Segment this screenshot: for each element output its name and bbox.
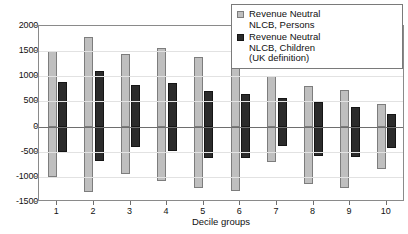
bar-5-series1-negative bbox=[194, 127, 203, 189]
gridline bbox=[39, 177, 403, 178]
bar-10-series1-positive bbox=[377, 104, 386, 126]
chart-legend: Revenue Neutral NLCB, Persons Revenue Ne… bbox=[231, 4, 403, 69]
gridline bbox=[39, 76, 403, 77]
bar-9-series1-positive bbox=[340, 90, 349, 126]
bar-5-series2-negative bbox=[204, 127, 213, 158]
x-axis-tick-mark bbox=[56, 201, 57, 205]
x-axis-tick-mark bbox=[349, 201, 350, 205]
bar-4-series2-negative bbox=[168, 127, 177, 152]
bar-7-series2-positive bbox=[278, 98, 287, 126]
y-axis-tick-label: 500 bbox=[4, 96, 38, 105]
bar-chart: 2000150010005000-500-1000-1500 123456789… bbox=[0, 0, 408, 234]
bar-1-series2-negative bbox=[58, 127, 67, 152]
bar-1-series2-positive bbox=[58, 82, 67, 127]
x-axis-tick-mark bbox=[203, 201, 204, 205]
legend-label-children-line1: Revenue Neutral bbox=[249, 31, 320, 42]
x-axis-tick-label: 2 bbox=[78, 206, 108, 216]
x-axis-tick-label: 4 bbox=[151, 206, 181, 216]
bar-4-series1-positive bbox=[157, 48, 166, 127]
x-axis-tick-label: 5 bbox=[188, 206, 218, 216]
y-axis-tick-label: -500 bbox=[4, 147, 38, 156]
x-axis-title: Decile groups bbox=[38, 216, 404, 227]
bar-4-series1-negative bbox=[157, 127, 166, 181]
bar-10-series2-positive bbox=[387, 114, 396, 127]
x-axis-tick-mark bbox=[130, 201, 131, 205]
x-axis-tick-label: 8 bbox=[298, 206, 328, 216]
x-axis-tick-mark bbox=[239, 201, 240, 205]
bar-7-series1-negative bbox=[267, 127, 276, 162]
x-axis-tick-mark bbox=[276, 201, 277, 205]
x-axis-tick-mark bbox=[93, 201, 94, 205]
legend-label-persons-line2: NLCB, Persons bbox=[249, 19, 314, 30]
bar-5-series1-positive bbox=[194, 57, 203, 127]
x-axis-tick-label: 6 bbox=[224, 206, 254, 216]
bar-7-series2-negative bbox=[278, 127, 287, 146]
legend-swatch-persons-icon bbox=[237, 11, 244, 18]
x-axis-tick-mark bbox=[313, 201, 314, 205]
bar-3-series1-positive bbox=[121, 54, 130, 126]
bar-5-series2-positive bbox=[204, 91, 213, 126]
x-axis-tick-label: 10 bbox=[371, 206, 401, 216]
y-axis-tick-label: 1500 bbox=[4, 46, 38, 55]
bar-6-series1-negative bbox=[231, 127, 240, 192]
bar-9-series1-negative bbox=[340, 127, 349, 188]
legend-label-children-line2: NLCB, Children bbox=[249, 42, 315, 53]
x-axis-tick-label: 3 bbox=[115, 206, 145, 216]
bar-8-series1-positive bbox=[304, 86, 313, 126]
gridline bbox=[39, 101, 403, 102]
bar-2-series2-negative bbox=[95, 127, 104, 162]
bar-8-series1-negative bbox=[304, 127, 313, 184]
bar-3-series2-negative bbox=[131, 127, 140, 147]
legend-swatch-children-icon bbox=[237, 34, 244, 41]
bar-1-series1-positive bbox=[48, 51, 57, 126]
y-axis: 2000150010005000-500-1000-1500 bbox=[0, 18, 38, 208]
bar-9-series2-positive bbox=[351, 107, 360, 127]
bar-6-series2-positive bbox=[241, 94, 250, 126]
y-axis-tick-label: -1000 bbox=[4, 172, 38, 181]
bar-3-series1-negative bbox=[121, 127, 130, 174]
x-axis-tick-mark bbox=[386, 201, 387, 205]
bar-6-series2-negative bbox=[241, 127, 250, 158]
bar-8-series2-positive bbox=[314, 102, 323, 126]
legend-label-persons: Revenue Neutral NLCB, Persons bbox=[249, 9, 320, 30]
bar-10-series1-negative bbox=[377, 127, 386, 169]
legend-label-children-line3: (UK definition) bbox=[249, 52, 309, 63]
bar-10-series2-negative bbox=[387, 127, 396, 149]
zero-line bbox=[39, 127, 403, 128]
bar-3-series2-positive bbox=[131, 85, 140, 127]
x-axis-tick-label: 1 bbox=[41, 206, 71, 216]
y-axis-tick-label: 0 bbox=[4, 122, 38, 131]
y-axis-tick-label: 1000 bbox=[4, 71, 38, 80]
y-axis-tick-label: 2000 bbox=[4, 21, 38, 30]
x-axis-tick-mark bbox=[166, 201, 167, 205]
x-axis-tick-label: 7 bbox=[261, 206, 291, 216]
bar-2-series1-negative bbox=[84, 127, 93, 193]
legend-label-children: Revenue Neutral NLCB, Children (UK defin… bbox=[249, 32, 320, 64]
gridline bbox=[39, 152, 403, 153]
bar-4-series2-positive bbox=[168, 83, 177, 126]
y-axis-tick-label: -1500 bbox=[4, 197, 38, 206]
x-axis-tick-label: 9 bbox=[334, 206, 364, 216]
legend-item-children: Revenue Neutral NLCB, Children (UK defin… bbox=[237, 32, 397, 64]
legend-item-persons: Revenue Neutral NLCB, Persons bbox=[237, 9, 397, 30]
legend-label-persons-line1: Revenue Neutral bbox=[249, 8, 320, 19]
bar-2-series2-positive bbox=[95, 71, 104, 127]
